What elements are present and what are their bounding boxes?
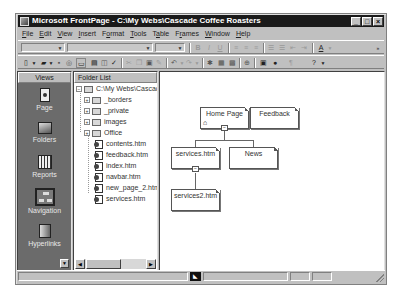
nav-connector — [253, 140, 254, 147]
toolbar-separator — [254, 58, 255, 68]
navigation-icon — [36, 189, 54, 205]
minimize-button[interactable]: _ — [351, 17, 361, 26]
save-icon[interactable]: ▪ — [54, 58, 64, 68]
menu-file[interactable]: File — [19, 29, 36, 39]
decrease-indent-icon[interactable]: ⇤ — [288, 43, 298, 53]
nav-page-news[interactable]: News — [229, 147, 278, 169]
chevron-down-icon: ▼ — [57, 45, 63, 51]
views-scroll-down-button[interactable]: ▼ — [60, 259, 69, 268]
tree-file[interactable]: feedback.htm — [95, 150, 148, 160]
tree-root-label: C:\My Webs\Cascac — [96, 84, 158, 94]
menu-view[interactable]: View — [54, 29, 75, 39]
preview-icon[interactable]: ◫ — [99, 58, 109, 68]
refresh-icon[interactable]: ▣ — [258, 58, 268, 68]
tree-folder[interactable]: + images — [84, 117, 127, 127]
expand-icon[interactable]: + — [84, 119, 90, 125]
tree-folder[interactable]: + Office — [84, 128, 122, 138]
toolbar-separator — [239, 58, 240, 68]
connection-status-icon: ◣ — [190, 272, 201, 281]
increase-indent-icon[interactable]: ⇥ — [299, 43, 309, 53]
expand-icon[interactable]: + — [84, 108, 90, 114]
folder-icon — [92, 119, 101, 126]
align-center-icon[interactable]: ≡ — [241, 43, 251, 53]
menu-edit[interactable]: Edit — [36, 29, 54, 39]
folder-list-pane: Folder List − C:\My Webs\Cascac + _borde… — [73, 71, 158, 271]
tree-file[interactable]: navbar.htm — [95, 172, 141, 182]
cut-icon[interactable]: ✂ — [124, 58, 134, 68]
underline-button[interactable]: U — [215, 43, 225, 53]
nav-page-label: Feedback — [259, 110, 290, 117]
collapse-icon[interactable]: − — [76, 86, 82, 92]
html-file-icon — [95, 173, 103, 182]
more-buttons-icon[interactable]: » — [373, 43, 383, 53]
chevron-down-icon[interactable]: ▼ — [325, 43, 335, 53]
frontpage-app-icon[interactable] — [20, 17, 29, 26]
insert-image-icon[interactable]: ▩ — [227, 58, 237, 68]
menu-insert[interactable]: Insert — [75, 29, 99, 39]
scroll-left-button[interactable]: ◀ — [75, 259, 85, 269]
html-file-icon — [95, 195, 103, 204]
chevron-down-icon[interactable]: ▼ — [318, 58, 328, 68]
menu-window[interactable]: Window — [202, 29, 233, 39]
status-pane — [312, 272, 332, 281]
view-page[interactable]: Page — [18, 88, 71, 111]
close-button[interactable]: × — [373, 17, 383, 26]
expand-icon[interactable]: + — [84, 130, 90, 136]
view-navigation[interactable]: Navigation — [18, 189, 71, 214]
align-right-icon[interactable]: ≡ — [251, 43, 261, 53]
chevron-down-icon[interactable]: ▼ — [192, 58, 202, 68]
italic-button[interactable]: I — [204, 43, 214, 53]
font-combo[interactable]: ▼ — [67, 43, 153, 52]
html-file-icon — [95, 140, 103, 149]
align-left-icon[interactable]: ≡ — [231, 43, 241, 53]
show-all-icon[interactable]: ¶ — [286, 58, 296, 68]
menu-tools[interactable]: Tools — [127, 29, 149, 39]
menu-frames[interactable]: Frames — [172, 29, 202, 39]
print-icon[interactable]: ▤ — [89, 58, 99, 68]
view-reports[interactable]: Reports — [18, 155, 71, 178]
menu-help[interactable]: Help — [233, 29, 253, 39]
tree-folder[interactable]: + _borders — [84, 95, 132, 105]
style-combo[interactable]: ▼ — [21, 43, 65, 52]
size-combo[interactable]: ▼ — [155, 43, 185, 52]
view-folders-label: Folders — [33, 136, 56, 143]
collapse-icon[interactable]: − — [221, 125, 228, 131]
tree-file[interactable]: index.htm — [95, 161, 136, 171]
scroll-right-button[interactable]: ▶ — [146, 259, 156, 269]
folder-list-icon[interactable]: ▭ — [76, 58, 86, 68]
nav-page-services2[interactable]: services2.htm — [171, 189, 220, 211]
home-icon: ⌂ — [203, 119, 207, 126]
insert-component-icon[interactable]: ✱ — [205, 58, 215, 68]
hyperlink-icon[interactable]: ⊕ — [242, 58, 252, 68]
numbered-list-icon[interactable]: ☰ — [266, 43, 276, 53]
bold-button[interactable]: B — [193, 43, 203, 53]
tree-file[interactable]: services.htm — [95, 194, 145, 204]
folder-list-horizontal-scrollbar[interactable]: ◀ ▶ — [75, 259, 156, 269]
expand-icon[interactable]: + — [84, 97, 90, 103]
menu-format[interactable]: Format — [99, 29, 127, 39]
tree-file[interactable]: contents.htm — [95, 139, 146, 149]
tree-root[interactable]: − C:\My Webs\Cascac — [76, 84, 158, 94]
bulleted-list-icon[interactable]: ☰ — [277, 43, 287, 53]
paste-icon[interactable]: ▣ — [144, 58, 154, 68]
title-bar[interactable]: Microsoft FrontPage - C:\My Webs\Cascade… — [18, 15, 384, 27]
nav-page-feedback[interactable]: Feedback — [250, 107, 299, 129]
copy-icon[interactable]: ❐ — [134, 58, 144, 68]
stop-icon[interactable]: ● — [270, 58, 280, 68]
format-painter-icon[interactable]: ✎ — [154, 58, 164, 68]
maximize-button[interactable]: □ — [362, 17, 372, 26]
publish-icon[interactable]: ◎ — [64, 58, 74, 68]
menu-table[interactable]: Table — [149, 29, 172, 39]
insert-table-icon[interactable]: ▦ — [216, 58, 226, 68]
spelling-icon[interactable]: ✓ — [109, 58, 119, 68]
tree-file[interactable]: new_page_2.htm — [95, 183, 158, 193]
resize-grip[interactable] — [376, 274, 384, 282]
view-folders[interactable]: Folders — [18, 122, 71, 143]
file-label: services.htm — [106, 194, 145, 204]
view-hyperlinks[interactable]: Hyperlinks — [18, 224, 71, 247]
scroll-thumb[interactable] — [86, 259, 121, 269]
collapse-icon[interactable]: − — [192, 166, 199, 172]
chevron-down-icon: ▼ — [177, 45, 183, 51]
toolbar-separator — [228, 43, 229, 53]
tree-folder[interactable]: + _private — [84, 106, 129, 116]
